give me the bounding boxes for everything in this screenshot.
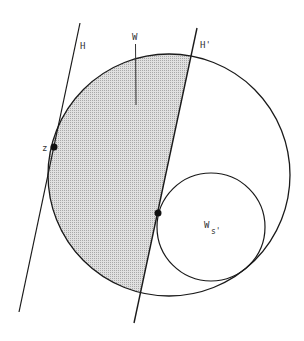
label-Ws-subscript: s': [211, 227, 221, 236]
label-H-prime: H': [200, 40, 211, 50]
label-z: z: [42, 143, 47, 153]
label-W: W: [132, 32, 138, 42]
point-tangent: [155, 210, 162, 217]
label-H: H: [80, 41, 85, 51]
W-pointer-line: [136, 44, 137, 105]
label-Ws: W: [204, 220, 210, 230]
geometry-diagram: H H' W z W s': [0, 0, 304, 341]
point-z: [51, 144, 58, 151]
